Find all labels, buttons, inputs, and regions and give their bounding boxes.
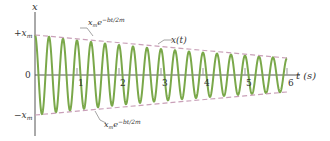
curve-leader xyxy=(158,40,172,44)
x-tick-label: 1 xyxy=(78,78,84,88)
x-axis-label: t (s) xyxy=(296,70,316,81)
x-tick-label: 5 xyxy=(246,78,252,88)
x-tick-label: 4 xyxy=(204,78,210,88)
curve-label: x(t) xyxy=(171,35,187,45)
x-tick-label: 6 xyxy=(288,78,294,88)
upper-envelope-label: xme−bt/2m xyxy=(88,16,125,28)
zero-label: 0 xyxy=(25,70,31,80)
upper-envelope xyxy=(35,35,287,58)
upper-envelope-leader xyxy=(80,28,93,36)
lower-envelope-label: xme−bt/2m xyxy=(104,118,141,130)
x-tick-label: 3 xyxy=(162,78,168,88)
x-tick-label: 2 xyxy=(120,78,126,88)
minus-xm-label: −xm xyxy=(14,110,33,121)
damped-oscillation-chart: 123456 x t (s) 0 +xm −xm xme−bt/2m x(t) … xyxy=(0,0,330,141)
plus-xm-label: +xm xyxy=(14,28,33,39)
y-axis-label: x xyxy=(32,1,38,12)
